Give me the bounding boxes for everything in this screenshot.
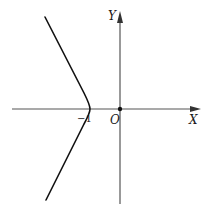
x-axis-label: X xyxy=(188,113,198,127)
y-axis-arrow-icon xyxy=(117,11,123,23)
origin-dot xyxy=(118,107,122,111)
coordinate-diagram: Y X O −1 xyxy=(0,0,214,214)
origin-label: O xyxy=(110,113,120,127)
x-axis-arrow-icon xyxy=(190,106,201,112)
vertex-tick-label: −1 xyxy=(77,113,92,124)
x-axis xyxy=(12,106,201,112)
y-axis-label: Y xyxy=(108,9,117,23)
